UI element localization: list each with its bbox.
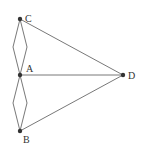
- edge-a-b-left: [13, 75, 20, 131]
- node-b: [18, 129, 22, 133]
- graph-diagram: C A B D: [0, 0, 145, 149]
- edge-a-b-right: [20, 75, 27, 131]
- edge-c-d: [20, 19, 123, 75]
- node-d: [121, 73, 125, 77]
- node-a: [18, 73, 22, 77]
- label-b: B: [23, 134, 30, 145]
- label-a: A: [26, 63, 34, 74]
- label-c: C: [25, 13, 32, 24]
- edge-b-d: [20, 75, 123, 131]
- node-c: [18, 17, 22, 21]
- label-d: D: [128, 70, 135, 81]
- edge-c-a-left: [13, 19, 20, 75]
